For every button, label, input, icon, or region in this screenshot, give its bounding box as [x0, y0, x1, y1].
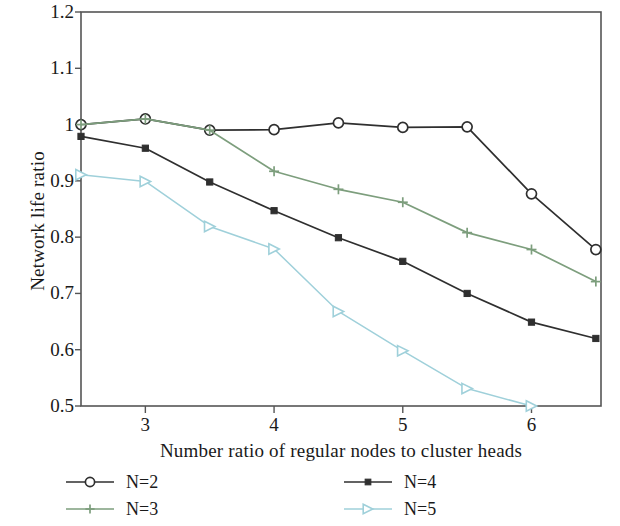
data-point-marker — [271, 208, 277, 214]
legend-entry-n5[interactable]: N=5 — [342, 497, 436, 521]
axis-box — [81, 12, 601, 406]
chart-figure: Network life ratio 0.50.60.70.80.911.11.… — [0, 0, 620, 526]
data-point-marker — [205, 221, 215, 231]
series-line — [81, 119, 596, 250]
series-n2 — [76, 114, 601, 255]
legend-swatch — [342, 499, 394, 519]
data-point-marker — [528, 319, 534, 325]
legend-swatch — [64, 499, 116, 519]
data-point-marker — [526, 189, 536, 199]
legend-label: N=2 — [126, 472, 158, 493]
legend-entry-n4[interactable]: N=4 — [342, 470, 436, 494]
data-point-marker — [363, 504, 373, 514]
axis-ticks — [75, 12, 531, 413]
legend-entry-n3[interactable]: N=3 — [64, 497, 158, 521]
x-axis-title: Number ratio of regular nodes to cluster… — [81, 440, 601, 462]
data-point-marker — [269, 166, 279, 176]
x-axis-tick-label: 3 — [125, 414, 165, 436]
data-point-marker — [365, 479, 371, 485]
data-point-marker — [142, 145, 148, 151]
axis-frame — [81, 12, 601, 406]
data-point-marker — [269, 125, 279, 135]
data-point-marker — [333, 306, 343, 316]
data-point-marker — [591, 245, 601, 255]
series-n3 — [76, 114, 601, 287]
data-point-marker — [400, 258, 406, 264]
x-axis-tick-label: 4 — [254, 414, 294, 436]
data-point-marker — [398, 197, 408, 207]
legend-swatch — [64, 472, 116, 492]
series-line — [81, 119, 596, 282]
data-point-marker — [462, 122, 472, 132]
data-point-marker — [464, 290, 470, 296]
data-point-marker — [333, 118, 343, 128]
data-point-marker — [398, 122, 408, 132]
data-point-marker — [335, 235, 341, 241]
x-axis-tick-label: 5 — [383, 414, 423, 436]
data-point-marker — [85, 504, 94, 513]
data-point-marker — [462, 228, 472, 238]
data-point-marker — [78, 133, 84, 139]
legend-label: N=4 — [404, 472, 436, 493]
data-point-marker — [593, 335, 599, 341]
legend-swatch — [342, 472, 394, 492]
legend-label: N=5 — [404, 499, 436, 520]
data-point-marker — [85, 477, 94, 486]
data-point-marker — [462, 383, 472, 393]
data-point-marker — [591, 277, 601, 287]
chart-legend: N=2N=3N=4N=5 — [64, 470, 564, 524]
x-axis-tick-label: 6 — [511, 414, 551, 436]
data-point-marker — [398, 346, 408, 356]
data-point-marker — [526, 245, 536, 255]
legend-label: N=3 — [126, 499, 158, 520]
legend-entry-n2[interactable]: N=2 — [64, 470, 158, 494]
series-group — [76, 114, 601, 411]
data-point-marker — [140, 176, 150, 186]
data-point-marker — [333, 184, 343, 194]
data-point-marker — [207, 179, 213, 185]
